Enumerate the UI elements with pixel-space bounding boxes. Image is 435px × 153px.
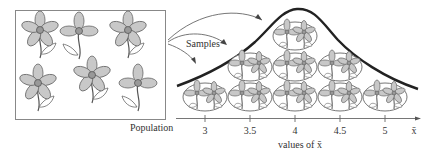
sampling-distribution-diagram: Population Samples 3 3.5 4 — [0, 0, 435, 153]
sample-group-4.5 — [318, 80, 362, 111]
sample-group-3.5 — [228, 80, 272, 111]
tick-labels: 3 3.5 4 4.5 5 x̄ — [203, 125, 417, 136]
population-label: Population — [130, 122, 173, 133]
axis-arrow-icon — [415, 117, 421, 121]
sample-group-4 — [273, 19, 317, 50]
sample-group-3 — [183, 80, 227, 111]
sample-group-5 — [363, 80, 407, 111]
sample-groups — [183, 19, 407, 111]
sample-group-4 — [273, 50, 317, 81]
tick-label: 3 — [203, 125, 208, 136]
axis-end-label: x̄ — [412, 125, 417, 136]
tick-label: 4.5 — [334, 125, 347, 136]
axis-title: values of x̄ — [278, 139, 322, 150]
sample-group-3.5 — [228, 50, 272, 81]
tick-label: 3.5 — [244, 125, 257, 136]
tick-label: 4 — [293, 125, 298, 136]
x-axis — [176, 115, 421, 122]
sample-group-4 — [273, 80, 317, 111]
population-box — [16, 11, 166, 120]
samples-label: Samples — [186, 38, 220, 49]
tick-label: 5 — [383, 125, 388, 136]
